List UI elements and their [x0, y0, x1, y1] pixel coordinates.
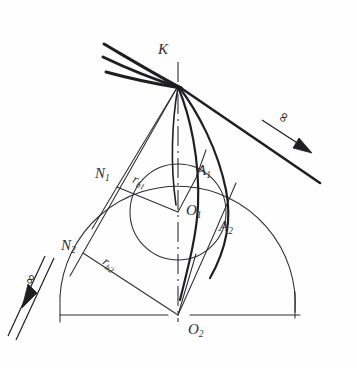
- involute-gear-diagram: K N1 rb1 A1 O1 A2 N2 rb2 O2 ∞ ∞: [0, 0, 357, 368]
- involute-branch-upper-2: [103, 57, 181, 88]
- label-center-o2: O2: [188, 322, 204, 337]
- profile-chord-3: [178, 254, 196, 315]
- label-center-o1: O1: [186, 203, 202, 218]
- arrow-head-upper-right: [293, 138, 312, 153]
- label-point-k: K: [158, 42, 168, 57]
- arrow-line-lower-left-a: [16, 258, 54, 340]
- label-point-n2: N2: [61, 238, 76, 253]
- label-point-a2: A2: [219, 219, 233, 234]
- arrow-head-lower-left: [22, 284, 37, 308]
- label-point-a1: A1: [197, 163, 211, 178]
- diagram-canvas: [0, 0, 357, 368]
- tangent-line-KN1: [92, 86, 178, 229]
- radius-line-rb2: [83, 253, 178, 315]
- involute-profile-3: [172, 87, 178, 205]
- radius-line-rb1: [117, 187, 178, 212]
- label-point-n1: N1: [95, 166, 110, 181]
- tangent-line-KN2: [70, 86, 178, 276]
- direction-arrows: [8, 120, 312, 340]
